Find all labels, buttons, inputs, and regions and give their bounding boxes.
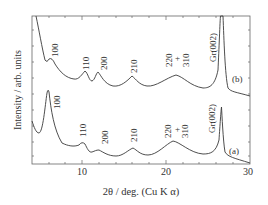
a-peak-gr002-label: Gr(002) — [207, 104, 217, 133]
x-tick-label-10: 10 — [77, 166, 87, 177]
xrd-chart: 100 110 200 210 220 + 310 Gr(002) (b) 10… — [0, 0, 268, 205]
curve-b-tag: (b) — [232, 74, 243, 84]
curve-a — [32, 90, 250, 163]
curve-a-tag: (a) — [229, 146, 239, 156]
x-tick-label-20: 20 — [161, 166, 171, 177]
b-peak-310-label: 310 — [181, 53, 191, 67]
a-peak-310-label: 310 — [180, 124, 190, 138]
y-axis-title: Intensity / arb. units — [12, 50, 23, 130]
a-peak-200-label: 200 — [100, 130, 110, 144]
b-peak-gr002-label: Gr(002) — [208, 33, 218, 62]
a-peak-110-label: 110 — [78, 123, 88, 137]
b-peak-210-label: 210 — [129, 59, 139, 73]
x-axis-title: 2θ / deg. (Cu K α) — [103, 186, 180, 198]
b-peak-100-label: 100 — [50, 43, 60, 57]
x-tick-label-30: 30 — [243, 166, 253, 177]
b-peak-200-label: 200 — [99, 56, 109, 70]
x-ticks — [49, 16, 233, 164]
a-peak-100-label: 100 — [52, 95, 62, 109]
a-peak-210-label: 210 — [129, 128, 139, 142]
b-peak-110-label: 110 — [81, 56, 91, 70]
b-peak-plus-label: + — [175, 53, 180, 63]
a-peak-220-label: 220 — [163, 124, 173, 138]
b-peak-220-label: 220 — [164, 53, 174, 67]
